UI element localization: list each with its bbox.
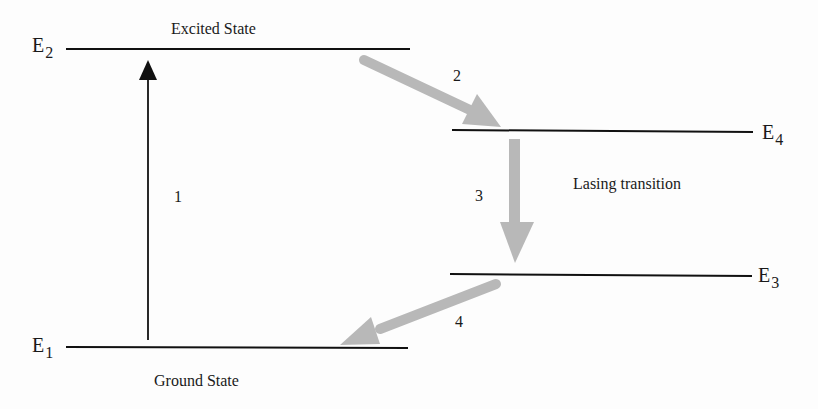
excited-state-label: Excited State bbox=[171, 20, 256, 38]
transition-number-1: 1 bbox=[174, 188, 182, 206]
level-line-e4 bbox=[452, 130, 753, 132]
transition-number-4: 4 bbox=[455, 313, 463, 331]
transition-number-3: 3 bbox=[475, 187, 483, 205]
energy-level-diagram: E2 E4 E3 E1 Excited State Ground State L… bbox=[0, 0, 818, 409]
diagram-canvas bbox=[0, 0, 818, 409]
transition-arrow-4 bbox=[340, 284, 496, 345]
level-label-e2: E2 bbox=[32, 34, 53, 62]
level-label-e3: E3 bbox=[758, 264, 779, 292]
transition-arrow-1 bbox=[139, 60, 157, 340]
transition-number-2: 2 bbox=[453, 67, 461, 85]
level-label-e4: E4 bbox=[762, 121, 783, 149]
transition-arrow-2 bbox=[364, 60, 501, 127]
lasing-transition-label: Lasing transition bbox=[573, 175, 681, 193]
level-line-e1 bbox=[66, 347, 408, 348]
transition-arrow-3 bbox=[500, 139, 534, 263]
level-line-e3 bbox=[450, 274, 752, 276]
ground-state-label: Ground State bbox=[154, 372, 239, 390]
level-label-e1: E1 bbox=[32, 334, 53, 362]
